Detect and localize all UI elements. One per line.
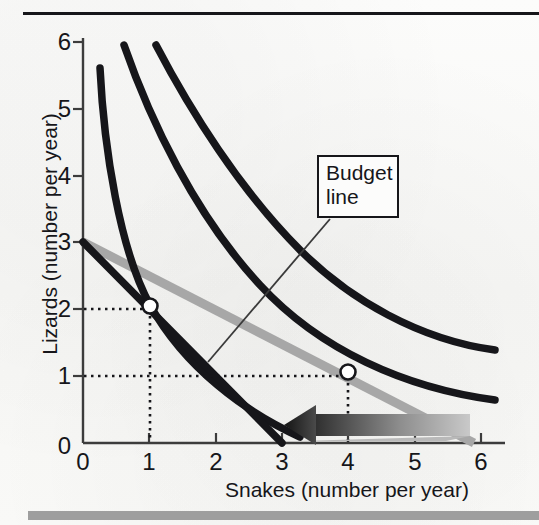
y-tick-marks [73,42,83,376]
point-marker-1-2 [143,299,158,314]
x-axis-title: Snakes (number per year) [225,478,469,502]
y-tick-label-0: 0 [45,434,71,458]
budget-line-callout-line2: line [326,185,397,209]
x-tick-label-5: 5 [402,450,428,474]
budget-line-callout: Budget line [317,155,399,218]
x-tick-label-0: 0 [70,450,96,474]
y-tick-label-6: 6 [45,30,71,54]
budget-line-callout-line1: Budget [326,161,397,185]
series-budget-line-original [83,242,474,443]
chart-plot-area [0,0,539,525]
x-tick-label-1: 1 [136,450,162,474]
point-marker-4-1 [341,365,356,380]
shift-arrow-icon [284,405,470,445]
x-tick-label-2: 2 [203,450,229,474]
y-axis-title: Lizards (number per year) [38,84,62,384]
x-tick-label-3: 3 [269,450,295,474]
figure-canvas: 6 5 4 3 2 1 0 0 1 2 3 4 5 6 Snakes (numb… [0,0,539,525]
x-tick-label-6: 6 [468,450,494,474]
x-tick-label-4: 4 [335,450,361,474]
bottom-gray-bar [28,511,539,520]
